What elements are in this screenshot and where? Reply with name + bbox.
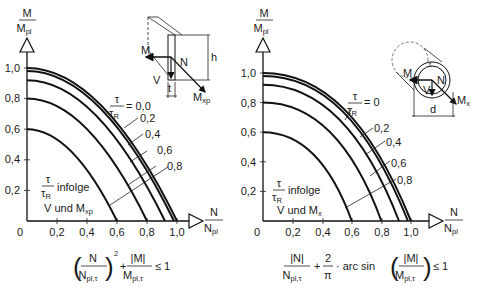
svg-text:τR: τR <box>41 187 51 201</box>
svg-text:Mx: Mx <box>457 94 470 108</box>
left-y-axis-arrow-icon <box>20 38 34 52</box>
svg-text:M: M <box>403 67 412 79</box>
left-x-tick: 0,8 <box>139 226 154 238</box>
svg-text:1,0: 1,0 <box>403 226 418 238</box>
right-note: τ τR infolge V und Mx <box>272 177 322 218</box>
svg-text:|N|: |N| <box>290 252 304 264</box>
svg-text:Npl,τ: Npl,τ <box>283 269 302 283</box>
svg-text:τ: τ <box>46 173 51 185</box>
sketch-label-V: V <box>153 74 161 86</box>
left-x-label-den: Npl <box>204 222 218 236</box>
svg-text:Npl,τ: Npl,τ <box>79 269 98 283</box>
left-formula: ( N Npl,τ ) 2 + |M| Mpl,τ ≤ 1 <box>73 249 170 283</box>
svg-text:0,4: 0,4 <box>315 226 330 238</box>
svg-text:): ) <box>423 252 432 282</box>
left-x-tick: 0,6 <box>109 226 124 238</box>
right-chart: M Mpl 0,2 0,4 0,6 0,8 1,0 N Npl <box>241 7 470 283</box>
left-curve-label: = 0,0 <box>126 100 151 112</box>
svg-text:0,8: 0,8 <box>241 97 256 109</box>
sketch-label-Mxp: Mxp <box>193 91 210 105</box>
svg-text:V und Mxp: V und Mxp <box>44 202 93 216</box>
left-chart: M Mpl 0,2 0,4 0,6 0,8 1,0 N Npl <box>5 7 223 283</box>
right-section-sketch: t M N V Mx d <box>392 42 470 117</box>
svg-text:N: N <box>89 252 97 264</box>
sketch-label-N: N <box>180 56 188 68</box>
right-y-axis: M Mpl 0,2 0,4 0,6 0,8 1,0 <box>241 7 273 221</box>
svg-text:2: 2 <box>325 252 331 264</box>
svg-text:2: 2 <box>114 249 118 258</box>
svg-text:0,6: 0,6 <box>391 157 406 169</box>
svg-text:0,2: 0,2 <box>285 226 300 238</box>
svg-text:|M|: |M| <box>131 252 146 264</box>
svg-text:= 0: = 0 <box>364 96 380 108</box>
sketch-label-M: M <box>141 44 150 56</box>
right-curve-labels: τ τR = 0 0,2 0,4 0,6 0,8 <box>347 90 412 186</box>
left-y-tick: 0,4 <box>5 153 20 165</box>
left-y-tick: 1,0 <box>5 62 20 74</box>
svg-text:0,4: 0,4 <box>241 156 256 168</box>
left-ratio-den: τR <box>109 107 119 121</box>
svg-text:d: d <box>430 103 436 115</box>
svg-text:Mpl,τ: Mpl,τ <box>123 269 143 283</box>
svg-text:≤ 1: ≤ 1 <box>155 260 170 272</box>
left-ratio-num: τ <box>115 93 120 105</box>
svg-text:Mpl: Mpl <box>253 22 268 36</box>
svg-text:N: N <box>437 74 445 86</box>
right-x-axis-arrow-icon <box>429 214 443 228</box>
svg-text:infolge: infolge <box>288 184 320 196</box>
svg-text:τ: τ <box>353 90 358 102</box>
svg-text:τR: τR <box>347 104 357 118</box>
left-origin-label: 0 <box>17 226 23 238</box>
left-x-axis-arrow-icon <box>189 214 203 228</box>
svg-text:τR: τR <box>272 191 282 205</box>
svg-text:|M|: |M| <box>404 252 419 264</box>
left-y-tick: 0,2 <box>5 184 20 196</box>
left-x-tick: 0,2 <box>49 226 64 238</box>
svg-text:0,4: 0,4 <box>386 136 401 148</box>
left-note: τ τR infolge V und Mxp <box>41 173 93 216</box>
svg-text:1,0: 1,0 <box>241 67 256 79</box>
svg-text:τ: τ <box>277 177 282 189</box>
right-y-axis-arrow-icon <box>256 38 270 52</box>
left-y-axis: M Mpl 0,2 0,4 0,6 0,8 1,0 <box>5 7 36 221</box>
left-curve-label: 0,4 <box>145 128 160 140</box>
left-y-tick: 0,8 <box>5 92 20 104</box>
svg-text:0,2: 0,2 <box>374 122 389 134</box>
left-curve-label: 0,6 <box>157 144 172 156</box>
svg-text:π: π <box>324 269 332 281</box>
left-curve-label: 0,8 <box>167 160 182 172</box>
left-x-label-num: N <box>210 206 218 218</box>
svg-text:V und Mx: V und Mx <box>277 204 322 218</box>
svg-text:infolge: infolge <box>57 181 89 193</box>
left-y-label-den: Mpl <box>16 22 31 36</box>
svg-text:≤ 1: ≤ 1 <box>433 260 448 272</box>
svg-text:): ) <box>105 252 114 282</box>
svg-text:0,6: 0,6 <box>241 126 256 138</box>
svg-text:· arc sin: · arc sin <box>336 260 375 272</box>
left-y-tick: 0,6 <box>5 123 20 135</box>
svg-text:0,8: 0,8 <box>397 174 412 186</box>
left-x-tick: 1,0 <box>169 226 184 238</box>
svg-text:N: N <box>450 206 458 218</box>
svg-text:0,6: 0,6 <box>344 226 359 238</box>
sketch-label-h: h <box>211 51 217 63</box>
diagram-canvas: M Mpl 0,2 0,4 0,6 0,8 1,0 N Npl <box>0 0 481 294</box>
svg-text:Npl: Npl <box>444 222 458 236</box>
svg-text:M: M <box>259 7 268 19</box>
left-curve-label: 0,2 <box>140 112 155 124</box>
svg-text:V: V <box>423 84 431 96</box>
left-section-sketch: h t M N V Mxp <box>141 17 217 105</box>
left-x-tick: 0,4 <box>79 226 94 238</box>
sketch-label-t: t <box>168 82 171 94</box>
right-formula: |N| Npl,τ + 2 π · arc sin ( |M| Mpl,τ ) … <box>283 252 449 283</box>
svg-text:Mpl,τ: Mpl,τ <box>395 269 415 283</box>
svg-text:0,8: 0,8 <box>374 226 389 238</box>
svg-text:0,2: 0,2 <box>241 185 256 197</box>
svg-text:+: + <box>314 260 320 272</box>
svg-text:0: 0 <box>254 226 260 238</box>
left-y-label-num: M <box>22 7 31 19</box>
